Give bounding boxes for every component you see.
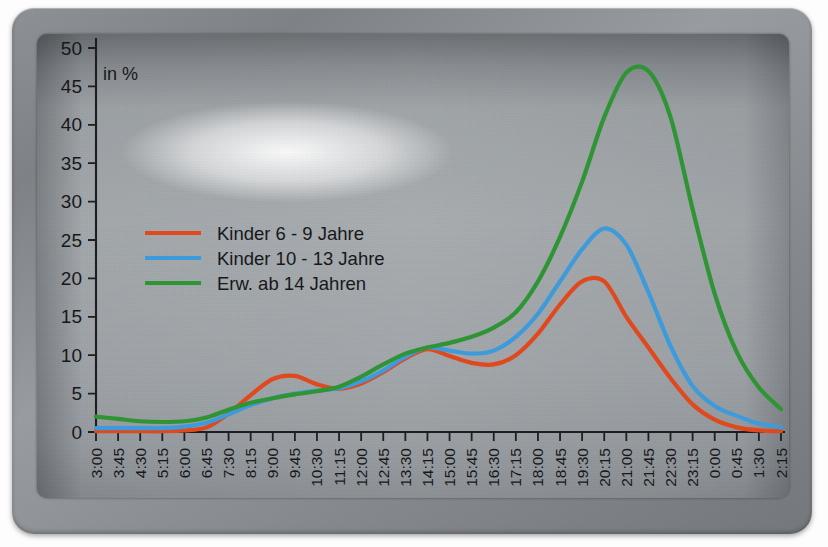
x-tick-label: 7:30	[220, 448, 237, 479]
legend-label: Kinder 6 - 9 Jahre	[217, 223, 364, 244]
screen-frame: 05101520253035404550 3:003:454:305:156:0…	[37, 34, 789, 498]
chart-legend: Kinder 6 - 9 JahreKinder 10 - 13 JahreEr…	[145, 223, 385, 294]
y-tick-label: 20	[61, 268, 82, 289]
legend-label: Kinder 10 - 13 Jahre	[217, 248, 385, 269]
x-tick-label: 15:00	[441, 448, 458, 487]
device-bezel: 05101520253035404550 3:003:454:305:156:0…	[12, 8, 812, 534]
y-axis: 05101520253035404550	[61, 38, 96, 443]
x-tick-label: 10:30	[308, 448, 325, 487]
x-tick-label: 18:00	[529, 448, 546, 487]
x-tick-label: 0:45	[728, 448, 745, 478]
x-tick-label: 20:15	[596, 448, 613, 487]
y-tick-label: 45	[61, 76, 82, 97]
y-tick-label: 50	[61, 38, 82, 59]
x-tick-label: 21:45	[640, 448, 657, 487]
x-tick-label: 23:15	[684, 448, 701, 487]
x-tick-label: 12:45	[375, 448, 392, 487]
y-tick-label: 5	[71, 383, 82, 404]
x-tick-label: 1:30	[750, 448, 767, 479]
line-chart: 05101520253035404550 3:003:454:305:156:0…	[37, 34, 789, 498]
x-tick-label: 4:30	[132, 448, 149, 479]
x-tick-label: 22:30	[662, 448, 679, 487]
x-tick-label: 3:00	[88, 448, 105, 479]
x-tick-label: 3:45	[110, 448, 127, 478]
x-tick-label: 9:45	[286, 448, 303, 478]
x-tick-label: 0:00	[706, 448, 723, 479]
axis-unit-label: in %	[103, 64, 138, 84]
y-tick-label: 35	[61, 153, 82, 174]
x-tick-label: 9:00	[264, 448, 281, 479]
x-tick-label: 16:30	[485, 448, 502, 487]
x-tick-label: 19:30	[574, 448, 591, 487]
y-tick-label: 40	[61, 114, 82, 135]
legend-label: Erw. ab 14 Jahren	[217, 273, 366, 294]
x-tick-label: 15:45	[463, 448, 480, 487]
y-tick-label: 15	[61, 306, 82, 327]
x-tick-label: 11:15	[331, 448, 348, 486]
x-tick-label: 14:15	[419, 448, 436, 487]
x-tick-label: 6:45	[198, 448, 215, 478]
series-group	[96, 67, 781, 432]
x-tick-label: 18:45	[552, 448, 569, 487]
y-tick-label: 0	[71, 422, 82, 443]
y-tick-group: 05101520253035404550	[61, 38, 96, 443]
x-tick-label: 8:15	[242, 448, 259, 478]
x-tick-label: 21:00	[618, 448, 635, 487]
x-tick-label: 12:00	[353, 448, 370, 487]
x-axis: 3:003:454:305:156:006:457:308:159:009:45…	[88, 432, 790, 487]
y-tick-label: 25	[61, 230, 82, 251]
x-tick-label: 13:30	[397, 448, 414, 487]
x-tick-label: 6:00	[176, 448, 193, 479]
y-tick-label: 30	[61, 191, 82, 212]
x-tick-label: 2:15	[773, 448, 790, 478]
x-tick-group: 3:003:454:305:156:006:457:308:159:009:45…	[88, 432, 790, 487]
series-line	[96, 278, 781, 431]
x-tick-label: 5:15	[154, 448, 171, 478]
x-tick-label: 17:15	[507, 448, 524, 487]
screenshot-root: 05101520253035404550 3:003:454:305:156:0…	[0, 0, 828, 547]
series-line	[96, 67, 781, 422]
y-tick-label: 10	[61, 345, 82, 366]
